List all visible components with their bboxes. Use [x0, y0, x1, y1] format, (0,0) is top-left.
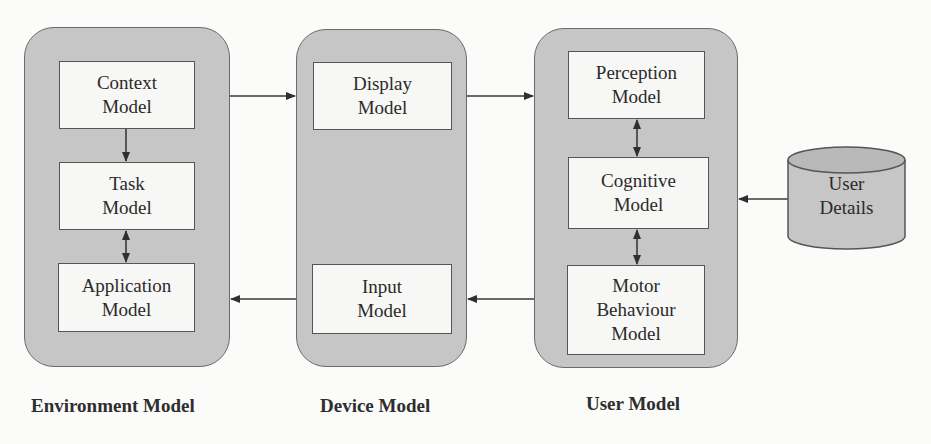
environment-model-caption: Environment Model [31, 395, 195, 417]
datastore-label: User [788, 172, 905, 196]
user-details-label: User Details [788, 172, 905, 220]
datastore-label: Details [788, 196, 905, 220]
device-model-caption: Device Model [320, 395, 430, 417]
user-model-caption: User Model [586, 393, 680, 415]
diagram-connectors [0, 0, 931, 444]
